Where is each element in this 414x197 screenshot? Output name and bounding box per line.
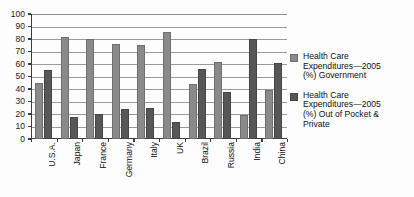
legend-color-swatch bbox=[290, 93, 298, 101]
y-axis-tick-label: 60 bbox=[16, 60, 25, 68]
bar-group bbox=[187, 14, 213, 139]
bar bbox=[61, 37, 69, 140]
bar-group bbox=[238, 14, 264, 139]
y-axis-tick-label: 0 bbox=[20, 135, 25, 143]
y-axis-tick-label: 20 bbox=[16, 110, 25, 118]
bar bbox=[198, 69, 206, 139]
bar-series-container bbox=[31, 14, 287, 139]
legend-entry[interactable]: Health Care Expenditures—2005 (%) Govern… bbox=[290, 52, 414, 81]
legend-label: Health Care Expenditures—2005 (%) Govern… bbox=[303, 52, 414, 81]
bar bbox=[70, 117, 78, 140]
bar bbox=[265, 90, 273, 139]
bar-group bbox=[84, 14, 110, 139]
y-axis-tick-label: 90 bbox=[16, 22, 25, 30]
x-axis-tick bbox=[287, 139, 288, 142]
bar-group bbox=[135, 14, 161, 139]
y-axis-tick-label: 70 bbox=[16, 47, 25, 55]
x-axis-tick-label: UK bbox=[176, 142, 185, 154]
bar-chart: 1009080706050403020100 U.S.A.JapanFrance… bbox=[0, 0, 414, 197]
bar bbox=[86, 39, 94, 139]
x-axis-tick-label: Germany bbox=[125, 142, 134, 177]
bar bbox=[163, 32, 171, 140]
bar bbox=[249, 39, 257, 139]
bar bbox=[44, 70, 52, 139]
legend-label: Health Care Expenditures—2005 (%) Out of… bbox=[303, 91, 414, 129]
bar bbox=[121, 109, 129, 139]
x-axis-tick-label: China bbox=[278, 142, 287, 164]
bar-group bbox=[263, 14, 289, 139]
bar bbox=[137, 45, 145, 139]
y-axis: 1009080706050403020100 bbox=[0, 0, 29, 197]
bar-group bbox=[212, 14, 238, 139]
bar bbox=[274, 63, 282, 139]
bar bbox=[189, 84, 197, 139]
y-axis-tick-label: 80 bbox=[16, 35, 25, 43]
y-axis-tick-label: 10 bbox=[16, 122, 25, 130]
bar bbox=[240, 115, 248, 139]
bar bbox=[95, 114, 103, 139]
x-axis-tick-label: U.S.A. bbox=[48, 142, 57, 167]
bar bbox=[146, 108, 154, 139]
bar-group bbox=[33, 14, 59, 139]
x-axis-labels: U.S.A.JapanFranceGermanyItalyUKBrazilRus… bbox=[31, 142, 287, 197]
y-axis-tick-label: 40 bbox=[16, 85, 25, 93]
bar bbox=[214, 62, 222, 140]
x-axis-tick-label: Japan bbox=[73, 142, 82, 165]
x-axis-tick-label: Russia bbox=[227, 142, 236, 168]
bar-group bbox=[161, 14, 187, 139]
y-axis-tick-label: 30 bbox=[16, 97, 25, 105]
bar-group bbox=[110, 14, 136, 139]
x-axis-tick-label: Brazil bbox=[201, 142, 210, 164]
y-axis-tick-label: 100 bbox=[11, 10, 25, 18]
x-axis-tick-label: France bbox=[99, 142, 108, 169]
x-axis-tick-label: Italy bbox=[150, 142, 159, 158]
bar-group bbox=[59, 14, 85, 139]
legend-color-swatch bbox=[290, 54, 298, 62]
bar bbox=[112, 44, 120, 139]
legend-entry[interactable]: Health Care Expenditures—2005 (%) Out of… bbox=[290, 91, 414, 129]
bar bbox=[35, 83, 43, 139]
bar bbox=[172, 122, 180, 140]
y-axis-tick-label: 50 bbox=[16, 72, 25, 80]
chart-legend: Health Care Expenditures—2005 (%) Govern… bbox=[290, 52, 414, 139]
bar bbox=[223, 92, 231, 140]
x-axis-tick-label: India bbox=[253, 142, 262, 161]
